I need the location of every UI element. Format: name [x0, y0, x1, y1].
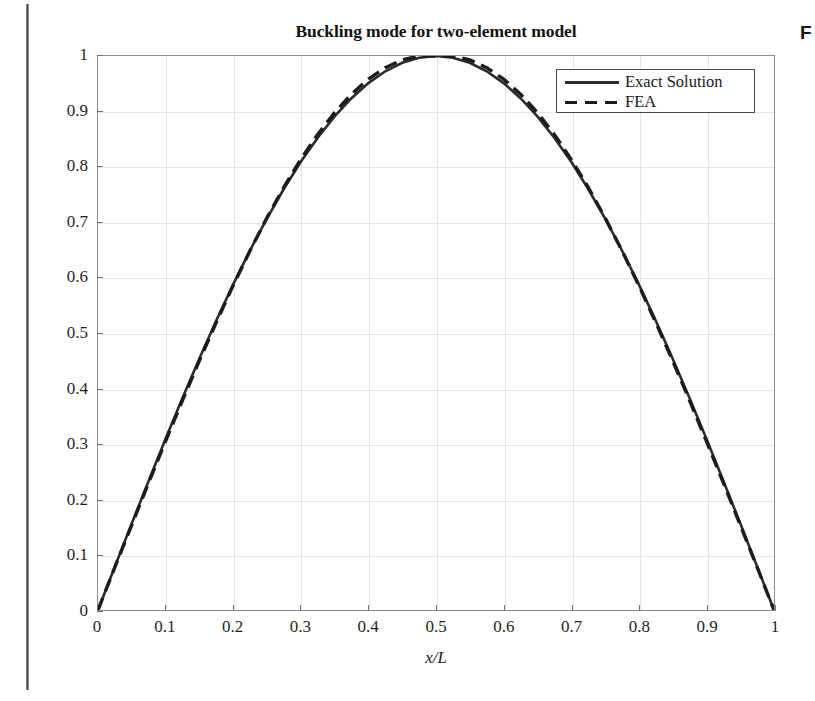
x-tick-label: 0.3 — [290, 617, 311, 637]
y-tick-mark — [97, 444, 103, 445]
x-tick-mark — [504, 605, 505, 611]
y-tick-mark — [97, 333, 103, 334]
x-axis-label: x/L — [97, 648, 775, 668]
x-tick-label: 0.7 — [561, 617, 582, 637]
y-tick-label: 0.9 — [67, 101, 88, 121]
x-tick-mark — [436, 605, 437, 611]
legend-label-fea: FEA — [625, 92, 656, 112]
curve-layer — [98, 56, 774, 610]
y-tick-label: 0.5 — [67, 323, 88, 343]
x-tick-mark — [233, 605, 234, 611]
y-tick-mark — [97, 166, 103, 167]
x-tick-mark — [368, 605, 369, 611]
y-tick-label: 0.6 — [67, 267, 88, 287]
y-tick-label: 0.4 — [67, 379, 88, 399]
plot-area — [97, 55, 775, 611]
x-tick-label: 0.1 — [154, 617, 175, 637]
y-tick-mark — [97, 277, 103, 278]
x-tick-mark — [165, 605, 166, 611]
x-tick-label: 0.5 — [425, 617, 446, 637]
y-tick-mark — [97, 55, 103, 56]
series-line-exact-solution — [98, 56, 774, 610]
x-tick-label: 0.9 — [697, 617, 718, 637]
y-tick-mark — [97, 111, 103, 112]
x-tick-label: 0.8 — [629, 617, 650, 637]
x-tick-mark — [300, 605, 301, 611]
y-tick-label: 0.2 — [67, 490, 88, 510]
y-tick-label: 0.1 — [67, 545, 88, 565]
y-tick-mark — [97, 555, 103, 556]
y-tick-label: 0.7 — [67, 212, 88, 232]
chart-title: Buckling mode for two-element model — [97, 21, 775, 42]
x-tick-label: 1 — [771, 617, 780, 637]
figure-buckling-mode: Buckling mode for two-element model 00.1… — [0, 0, 815, 701]
y-tick-label: 0.3 — [67, 434, 88, 454]
x-tick-label: 0 — [93, 617, 102, 637]
x-tick-label: 0.2 — [222, 617, 243, 637]
legend-entry-exact-solution: Exact Solution — [557, 71, 754, 92]
x-tick-label: 0.4 — [358, 617, 379, 637]
y-tick-label: 0.8 — [67, 156, 88, 176]
x-tick-mark — [707, 605, 708, 611]
legend-swatch-solid-line — [565, 75, 619, 89]
legend-label-exact-solution: Exact Solution — [625, 72, 723, 92]
y-tick-label: 1 — [80, 45, 89, 65]
x-tick-mark — [572, 605, 573, 611]
legend-swatch-dashed-line — [565, 95, 619, 109]
x-tick-mark — [639, 605, 640, 611]
y-tick-label: 0 — [80, 601, 89, 621]
series-line-fea — [98, 56, 774, 610]
x-tick-mark — [775, 605, 776, 611]
y-tick-mark — [97, 611, 103, 612]
legend-entry-fea: FEA — [557, 91, 754, 112]
y-tick-mark — [97, 389, 103, 390]
y-tick-mark — [97, 222, 103, 223]
y-tick-mark — [97, 500, 103, 501]
legend: Exact Solution FEA — [556, 69, 755, 113]
x-tick-label: 0.6 — [493, 617, 514, 637]
